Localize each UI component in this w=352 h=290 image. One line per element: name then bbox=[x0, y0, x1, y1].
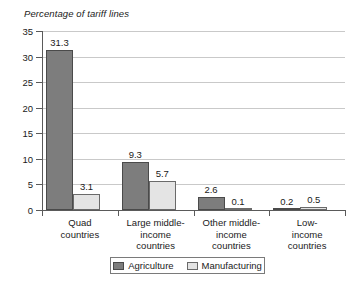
y-axis-line bbox=[42, 31, 43, 211]
bar-manufacturing[interactable] bbox=[73, 194, 100, 210]
y-tick-mark bbox=[36, 108, 42, 109]
x-axis-category-label: Other middle- income countries bbox=[203, 217, 261, 252]
gridline bbox=[42, 159, 345, 160]
plot-area: 31.33.19.35.72.60.10.20.5 bbox=[42, 31, 345, 210]
y-tick-label: 20 bbox=[0, 102, 33, 113]
y-tick-label: 35 bbox=[0, 26, 33, 37]
chart-title: Percentage of tariff lines bbox=[24, 8, 129, 19]
bar-value-label: 2.6 bbox=[204, 184, 217, 195]
bar-agriculture[interactable] bbox=[46, 50, 73, 210]
y-tick-mark bbox=[36, 159, 42, 160]
bar-value-label: 9.3 bbox=[129, 149, 142, 160]
legend-item-manufacturing[interactable]: Manufacturing bbox=[187, 260, 262, 271]
x-tick-mark bbox=[345, 210, 346, 216]
legend-swatch-agriculture bbox=[113, 262, 124, 270]
y-tick-mark bbox=[36, 31, 42, 32]
legend-label-manufacturing: Manufacturing bbox=[202, 260, 262, 271]
bar-manufacturing[interactable] bbox=[149, 181, 176, 210]
x-tick-mark bbox=[42, 210, 43, 216]
gridline bbox=[42, 57, 345, 58]
gridline bbox=[42, 133, 345, 134]
bar-chart: Percentage of tariff lines 0510152025303… bbox=[0, 0, 352, 290]
x-tick-mark bbox=[118, 210, 119, 216]
bar-value-label: 0.1 bbox=[231, 196, 244, 207]
y-tick-mark bbox=[36, 82, 42, 83]
x-axis-category-label: Low-income countries bbox=[285, 217, 330, 252]
legend-label-agriculture: Agriculture bbox=[128, 260, 173, 271]
y-tick-label: 0 bbox=[0, 205, 33, 216]
bar-value-label: 3.1 bbox=[80, 181, 93, 192]
x-axis-category-label: Quad countries bbox=[61, 217, 100, 240]
x-tick-mark bbox=[269, 210, 270, 216]
legend-item-agriculture[interactable]: Agriculture bbox=[113, 260, 173, 271]
y-tick-label: 15 bbox=[0, 128, 33, 139]
x-axis-category-label: Large middle- income countries bbox=[127, 217, 185, 252]
y-tick-mark bbox=[36, 133, 42, 134]
bar-agriculture[interactable] bbox=[122, 162, 149, 210]
chart-legend: Agriculture Manufacturing bbox=[110, 257, 265, 274]
x-tick-mark bbox=[194, 210, 195, 216]
y-tick-label: 10 bbox=[0, 153, 33, 164]
bar-value-label: 0.2 bbox=[280, 196, 293, 207]
y-tick-label: 30 bbox=[0, 51, 33, 62]
gridline bbox=[42, 82, 345, 83]
y-tick-mark bbox=[36, 184, 42, 185]
bar-agriculture[interactable] bbox=[198, 197, 225, 210]
gridline bbox=[42, 31, 345, 32]
y-tick-label: 5 bbox=[0, 179, 33, 190]
y-axis-labels: 05101520253035 bbox=[0, 0, 33, 290]
y-tick-label: 25 bbox=[0, 77, 33, 88]
bar-value-label: 31.3 bbox=[50, 37, 69, 48]
y-tick-mark bbox=[36, 57, 42, 58]
gridline bbox=[42, 108, 345, 109]
legend-swatch-manufacturing bbox=[187, 262, 198, 270]
bar-value-label: 5.7 bbox=[156, 168, 169, 179]
bar-value-label: 0.5 bbox=[307, 194, 320, 205]
